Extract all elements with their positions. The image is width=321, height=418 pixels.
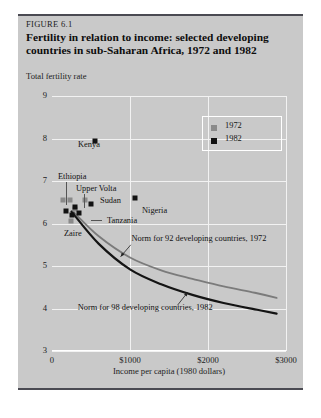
curve-annotation: Norm for 92 developing countries, 1972 xyxy=(132,234,267,243)
y-axis-tick-label: 4 xyxy=(27,303,47,313)
chart-legend: 19721982 xyxy=(202,116,282,151)
bottom-rule xyxy=(18,388,303,390)
norm-curve xyxy=(72,211,276,298)
y-axis-label: Total fertility rate xyxy=(26,71,86,81)
x-axis-tick-label: $1000 xyxy=(119,355,140,365)
legend-swatch xyxy=(211,125,217,131)
x-axis-label: Income per capita (1980 dollars) xyxy=(52,366,286,376)
label-leader-line xyxy=(91,220,102,221)
figure-panel: FIGURE 6.1 Fertility in relation to inco… xyxy=(18,14,303,390)
y-axis-tick-label: 8 xyxy=(27,133,47,143)
x-axis-tick-label: 0 xyxy=(50,355,54,365)
data-point-marker xyxy=(89,202,94,207)
data-point-label: Ethiopia xyxy=(58,172,86,181)
plot-area: 34567890$1000$2000$3000 KenyaEthiopiaUpp… xyxy=(52,96,286,351)
data-point-label: Nigeria xyxy=(142,206,167,215)
curve-annotation: Norm for 98 developing countries, 1982 xyxy=(78,303,213,312)
data-point-label: Zaire xyxy=(64,229,82,238)
legend-label: 1982 xyxy=(225,134,242,143)
gridline-horizontal xyxy=(52,351,286,352)
label-leader-line xyxy=(66,182,67,205)
data-point-label: Sudan xyxy=(100,196,121,205)
y-axis-tick-label: 7 xyxy=(27,175,47,185)
x-axis-tick-label: $2000 xyxy=(197,355,218,365)
legend-label: 1972 xyxy=(225,121,242,130)
y-axis-tick-label: 6 xyxy=(27,218,47,228)
data-point-label: Upper Volta xyxy=(76,184,116,193)
data-point-label: Kenya xyxy=(78,140,100,149)
y-axis-tick-label: 5 xyxy=(27,260,47,270)
y-axis-tick-label: 3 xyxy=(27,345,47,355)
x-axis-tick-label: $3000 xyxy=(275,355,296,365)
label-leader-line xyxy=(84,194,85,208)
data-point-marker xyxy=(60,198,65,203)
figure-title: Fertility in relation to income: selecte… xyxy=(26,31,294,57)
data-point-label: Tanzania xyxy=(107,216,137,225)
data-point-marker xyxy=(64,208,69,213)
data-point-marker xyxy=(77,210,82,215)
norm-curve xyxy=(72,212,277,314)
y-axis-tick-label: 9 xyxy=(27,90,47,100)
data-point-marker xyxy=(67,198,72,203)
data-point-marker xyxy=(73,204,78,209)
gridline-vertical xyxy=(286,96,287,351)
figure-number: FIGURE 6.1 xyxy=(26,19,72,29)
top-rule xyxy=(18,14,303,16)
data-point-marker xyxy=(133,196,138,201)
data-point-marker xyxy=(69,213,74,218)
data-point-marker xyxy=(69,219,74,224)
legend-swatch xyxy=(211,138,217,144)
